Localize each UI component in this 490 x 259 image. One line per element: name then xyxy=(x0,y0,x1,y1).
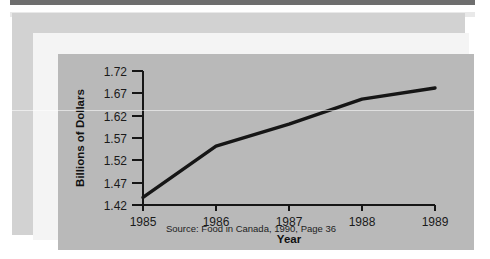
top-divider-rule xyxy=(10,0,475,5)
y-tick-label: 1.52 xyxy=(104,154,128,168)
y-axis-tick-labels: 1.72 1.67 1.62 1.57 1.52 1.47 1.42 xyxy=(104,65,128,213)
y-tick-label: 1.67 xyxy=(104,87,128,101)
y-axis-title: Billions of Dollars xyxy=(74,89,86,187)
y-tick-label: 1.62 xyxy=(104,110,128,124)
y-tick-label: 1.47 xyxy=(104,177,128,191)
y-tick-label: 1.57 xyxy=(104,132,128,146)
y-axis-ticks xyxy=(132,71,143,205)
y-tick-label: 1.42 xyxy=(104,199,128,213)
y-tick-label: 1.72 xyxy=(104,65,128,79)
source-note: Source: Food in Canada, 1990, Page 36 xyxy=(166,223,336,234)
figure-white-frame: 1.72 1.67 1.62 1.57 1.52 1.47 1.42 xyxy=(33,33,469,240)
figure-panel: 1.72 1.67 1.62 1.57 1.52 1.47 1.42 xyxy=(12,13,465,235)
figure-page: 1.72 1.67 1.62 1.57 1.52 1.47 1.42 xyxy=(0,0,490,259)
source-note-container: Source: Food in Canada, 1990, Page 36 xyxy=(33,218,469,236)
data-series-line xyxy=(143,88,435,197)
